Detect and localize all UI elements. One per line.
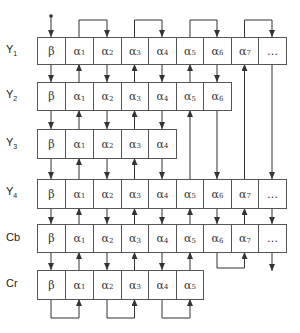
cell-y4-4: α4 bbox=[148, 179, 177, 209]
cell-cr-5: α5 bbox=[176, 270, 204, 300]
cell-cb-8: … bbox=[258, 224, 287, 253]
cell-y2-2: α2 bbox=[93, 82, 122, 111]
cell-cr-4: α4 bbox=[148, 270, 177, 300]
row-label-y4: Y4 bbox=[6, 185, 17, 199]
cell-cr-0: β bbox=[37, 270, 66, 300]
cell-y3-4: α4 bbox=[148, 129, 177, 159]
cell-cr-1: α1 bbox=[65, 270, 94, 300]
cell-y4-5: α5 bbox=[176, 179, 204, 209]
cell-cb-1: α1 bbox=[65, 224, 94, 253]
cell-y3-0: β bbox=[37, 129, 66, 159]
cell-cb-0: β bbox=[37, 224, 66, 253]
cell-y1-3: α3 bbox=[121, 37, 149, 65]
cell-y4-8: … bbox=[258, 179, 287, 209]
cell-y2-0: β bbox=[37, 82, 66, 111]
cell-y4-2: α2 bbox=[93, 179, 122, 209]
cell-y4-7: α7 bbox=[231, 179, 259, 209]
cell-y3-1: α1 bbox=[65, 129, 94, 159]
cell-y1-0: β bbox=[37, 37, 66, 65]
cell-y1-2: α2 bbox=[93, 37, 122, 65]
cell-y3-2: α2 bbox=[93, 129, 122, 159]
row-label-y1: Y1 bbox=[6, 43, 17, 57]
cell-cr-3: α3 bbox=[121, 270, 149, 300]
cell-cb-2: α2 bbox=[93, 224, 122, 253]
cell-y1-5: α5 bbox=[176, 37, 204, 65]
cell-y1-1: α1 bbox=[65, 37, 94, 65]
row-label-y2: Y2 bbox=[6, 88, 17, 102]
cell-y4-3: α3 bbox=[121, 179, 149, 209]
cell-cb-6: α6 bbox=[203, 224, 232, 253]
cell-y4-1: α1 bbox=[65, 179, 94, 209]
cell-cr-2: α2 bbox=[93, 270, 122, 300]
cell-cb-3: α3 bbox=[121, 224, 149, 253]
cell-y2-6: α6 bbox=[203, 82, 232, 111]
cell-y1-4: α4 bbox=[148, 37, 177, 65]
cell-y1-7: α7 bbox=[231, 37, 259, 65]
cell-y2-4: α4 bbox=[148, 82, 177, 111]
cell-y4-6: α6 bbox=[203, 179, 232, 209]
cell-y2-3: α3 bbox=[121, 82, 149, 111]
cell-y3-3: α3 bbox=[121, 129, 149, 159]
scan-order-diagram: Y1 Y2 Y3 Y4 Cb Cr βα1α2α3α4α5α6α7…βα1α2α… bbox=[0, 0, 300, 333]
cell-y2-1: α1 bbox=[65, 82, 94, 111]
cell-cb-4: α4 bbox=[148, 224, 177, 253]
cell-cb-7: α7 bbox=[231, 224, 259, 253]
row-label-y3: Y3 bbox=[6, 136, 17, 150]
cell-y1-8: … bbox=[258, 37, 287, 65]
cell-y4-0: β bbox=[37, 179, 66, 209]
cell-y2-5: α5 bbox=[176, 82, 204, 111]
row-label-cr: Cr bbox=[6, 277, 18, 289]
row-label-cb: Cb bbox=[6, 231, 20, 243]
cell-y1-6: α6 bbox=[203, 37, 232, 65]
cell-cb-5: α5 bbox=[176, 224, 204, 253]
